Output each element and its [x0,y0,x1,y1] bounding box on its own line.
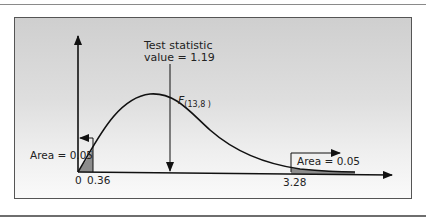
tick-label-lower-critical: 0.36 [87,174,111,186]
f-distribution-chart: Test statistic value = 1.19 F(13,8 ) Are… [0,0,426,219]
upper-area-label: Area = 0.05 [297,155,360,167]
bottom-rule [0,215,426,217]
curve-label: F(13,8 ) [178,94,211,109]
tick-label-zero: 0 [75,174,82,186]
lower-area-label: Area = 0.05 [30,149,93,161]
tick-label-upper-critical: 3.28 [283,176,306,188]
test-stat-label-line2: value = 1.19 [144,51,215,64]
curve-label-sub: (13,8 ) [184,100,211,109]
